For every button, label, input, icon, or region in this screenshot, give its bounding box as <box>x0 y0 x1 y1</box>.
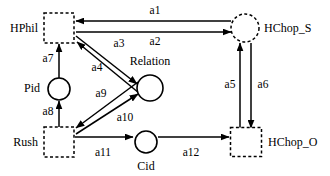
edge-label-a2: a2 <box>150 35 161 47</box>
edge-label-a7: a7 <box>43 52 54 64</box>
node-HPhil[interactable] <box>44 13 74 43</box>
edge-label-a1: a1 <box>150 4 161 16</box>
node-Relation[interactable] <box>137 75 163 101</box>
edge-label-a5: a5 <box>225 78 236 90</box>
node-label-Rush: Rush <box>13 135 38 149</box>
node-Rush[interactable] <box>44 127 74 157</box>
edge-a3 <box>76 36 137 84</box>
node-label-Relation: Relation <box>130 54 171 68</box>
node-Pid[interactable] <box>48 78 70 100</box>
node-label-HChopS: HChop_S <box>264 21 311 35</box>
diagram-canvas: a1a2a3a4a5a6a7a8a9a10a11a12 HPhilHChop_S… <box>0 0 330 176</box>
edge-label-a4: a4 <box>92 61 103 73</box>
edge-label-a9: a9 <box>96 87 107 99</box>
graph-svg: a1a2a3a4a5a6a7a8a9a10a11a12 HPhilHChop_S… <box>0 0 330 176</box>
node-label-HPhil: HPhil <box>10 21 39 35</box>
node-HChopS[interactable] <box>231 14 259 42</box>
edge-label-a3: a3 <box>114 37 125 49</box>
edge-label-a8: a8 <box>43 105 54 117</box>
edge-label-a10: a10 <box>117 111 134 123</box>
node-Cid[interactable] <box>135 131 157 153</box>
edge-label-a11: a11 <box>95 146 111 158</box>
node-label-Cid: Cid <box>137 159 154 173</box>
node-label-HChopO: HChop_O <box>268 135 318 149</box>
edge-label-a12: a12 <box>183 146 200 158</box>
edge-label-a6: a6 <box>258 78 269 90</box>
node-label-Pid: Pid <box>24 81 40 95</box>
node-HChopO[interactable] <box>231 128 262 157</box>
